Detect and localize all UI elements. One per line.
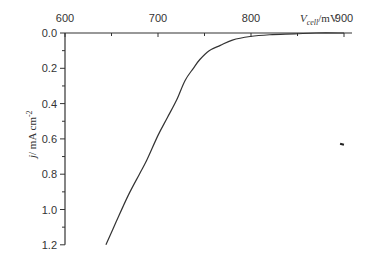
- y-tick-label: 0.4: [42, 98, 57, 110]
- y-tick-label: 0.8: [42, 168, 57, 180]
- data-curve: [106, 33, 344, 245]
- y-tick-label: 0.0: [42, 27, 57, 39]
- jv-chart: 600700800900 0.00.20.40.60.81.01.2 Vcell…: [0, 0, 369, 260]
- axes: [65, 33, 352, 245]
- ticks: [60, 33, 344, 245]
- x-tick-label: 700: [149, 12, 167, 24]
- stray-mark: [340, 143, 344, 146]
- y-tick-label: 1.0: [42, 204, 57, 216]
- y-tick-label: 1.2: [42, 239, 57, 251]
- y-axis-title: j/ mA cm-2: [25, 110, 38, 160]
- x-axis-title: Vcell/mV: [300, 12, 338, 27]
- x-tick-label: 800: [242, 12, 260, 24]
- x-tick-label: 600: [56, 12, 74, 24]
- y-tick-label: 0.6: [42, 133, 57, 145]
- y-tick-label: 0.2: [42, 62, 57, 74]
- y-tick-labels: 0.00.20.40.60.81.01.2: [42, 27, 57, 251]
